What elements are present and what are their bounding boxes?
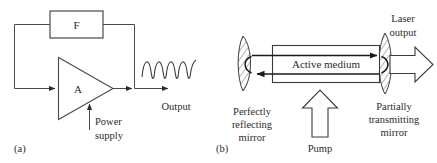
figure-container: F A Power supply Output (a): [0, 0, 437, 163]
power-supply-label-line2: supply: [95, 130, 124, 141]
figure-svg: F A Power supply Output (a): [0, 0, 437, 163]
panel-b-group: Active medium Perfectly reflecting mirro…: [216, 13, 433, 155]
left-mirror-label-line2: reflecting: [232, 119, 273, 130]
amplifier-label: A: [74, 83, 82, 95]
feedback-block-label: F: [73, 19, 79, 31]
pump-label: Pump: [308, 143, 333, 154]
panel-a-group: F A Power supply Output (a): [14, 11, 196, 155]
active-medium-label: Active medium: [292, 58, 361, 70]
right-mirror-label-line2: transmitting: [369, 114, 420, 125]
pump-arrow: [303, 90, 338, 137]
output-label: Output: [161, 101, 190, 112]
perfectly-reflecting-mirror: [238, 36, 250, 91]
right-mirror-label-line1: Partially: [376, 101, 412, 112]
laser-output-arrow: [390, 47, 433, 82]
panel-b-caption: (b): [216, 143, 229, 155]
output-waveform: [142, 60, 196, 78]
amplifier-triangle: [59, 58, 114, 120]
laser-output-label-line1: Laser: [391, 13, 415, 24]
left-mirror-label-line1: Perfectly: [233, 106, 272, 117]
power-supply-label-line1: Power: [95, 116, 122, 127]
panel-a-caption: (a): [14, 143, 26, 155]
left-mirror-label-line3: mirror: [239, 132, 266, 143]
laser-output-label-line2: output: [390, 27, 417, 38]
right-mirror-label-line3: mirror: [381, 127, 408, 138]
